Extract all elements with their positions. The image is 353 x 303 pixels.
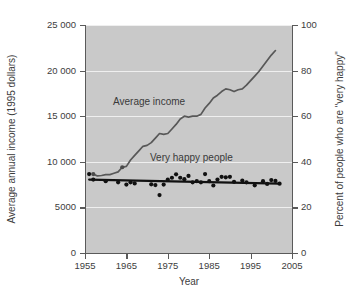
tick-right-80 (293, 71, 298, 72)
gridline-25000 (86, 25, 293, 26)
tick-x-2005 (292, 254, 293, 259)
xtick-label-1995: 1995 (240, 260, 261, 271)
series-annotation-very-happy-people: Very happy people (150, 152, 233, 163)
tick-x-1985 (209, 254, 210, 259)
gridline-15000 (86, 116, 293, 117)
xtick-label-1955: 1955 (74, 260, 95, 271)
ytick-label-right-2: 60 (301, 111, 312, 121)
tick-left-5000 (80, 207, 85, 208)
chart-figure: 25 000 20 000 15 000 10 000 5000 0 100 8… (0, 0, 353, 303)
ytick-label-right-1: 80 (301, 66, 312, 76)
x-axis-title: Year (85, 276, 293, 287)
tick-right-100 (293, 25, 298, 26)
ytick-label-left-4: 5000 (55, 202, 76, 212)
tick-left-20000 (80, 71, 85, 72)
tick-x-1995 (251, 254, 252, 259)
tick-right-20 (293, 207, 298, 208)
series-annotation-average-income: Average income (113, 96, 185, 107)
y-axis-title-left: Average annual income (1995 dollars) (6, 25, 20, 253)
xtick-label-2005: 2005 (281, 260, 302, 271)
xtick-label-1975: 1975 (157, 260, 178, 271)
xtick-label-1965: 1965 (116, 260, 137, 271)
y-axis-title-right: Percent of people who are "very happy" (334, 25, 348, 253)
tick-x-1965 (126, 254, 127, 259)
ytick-label-right-5: 0 (301, 248, 306, 258)
right-axis-line (292, 25, 293, 254)
tick-right-0 (293, 253, 298, 254)
ytick-label-right-3: 40 (301, 157, 312, 167)
gridline-5000 (86, 207, 293, 208)
tick-right-60 (293, 116, 298, 117)
ytick-label-left-1: 20 000 (47, 66, 76, 76)
tick-left-25000 (80, 25, 85, 26)
tick-right-40 (293, 162, 298, 163)
tick-left-15000 (80, 116, 85, 117)
ytick-label-left-0: 25 000 (47, 20, 76, 30)
x-axis-line (85, 253, 293, 254)
tick-x-1975 (168, 254, 169, 259)
gridline-20000 (86, 71, 293, 72)
ytick-label-left-5: 0 (71, 248, 76, 258)
ytick-label-right-0: 100 (301, 20, 317, 30)
ytick-label-left-2: 15 000 (47, 111, 76, 121)
ytick-label-left-3: 10 000 (47, 157, 76, 167)
ytick-label-right-4: 20 (301, 202, 312, 212)
xtick-label-1985: 1985 (199, 260, 220, 271)
tick-x-1955 (85, 254, 86, 259)
plot-area (85, 25, 293, 253)
tick-left-10000 (80, 162, 85, 163)
